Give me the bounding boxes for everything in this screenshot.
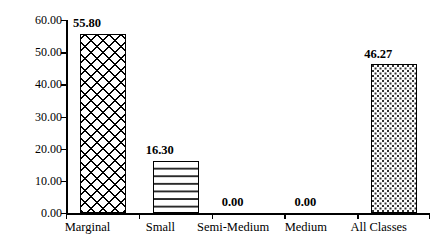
y-tick-mark — [61, 52, 66, 53]
value-label-all-classes: 46.27 — [348, 48, 408, 61]
bar-marginal — [80, 34, 126, 214]
y-tick-label: 30.00 — [26, 111, 62, 123]
y-tick-mark — [61, 149, 66, 150]
y-tick-label: 10.00 — [26, 175, 62, 187]
x-axis-line — [66, 213, 430, 215]
x-tick-mark — [357, 213, 358, 219]
y-tick-label: 50.00 — [26, 46, 62, 58]
x-tick-label-small: Small — [123, 220, 198, 234]
x-tick-mark — [212, 213, 213, 219]
value-label-small: 16.30 — [130, 144, 190, 157]
y-tick-label: 40.00 — [26, 78, 62, 90]
x-tick-mark — [139, 213, 140, 219]
x-tick-mark — [66, 213, 67, 219]
value-label-marginal: 55.80 — [57, 17, 117, 30]
y-tick-mark — [61, 117, 66, 118]
y-tick-mark — [61, 181, 66, 182]
x-tick-label-medium: Medium — [268, 220, 343, 234]
y-tick-mark — [61, 84, 66, 85]
y-tick-label: 20.00 — [26, 143, 62, 155]
value-label-semi-medium: 0.00 — [203, 196, 263, 209]
x-tick-label-semi-medium: Semi-Medium — [196, 220, 271, 234]
bar-small — [153, 161, 199, 213]
bar-all-classes — [371, 64, 417, 213]
y-tick-label: 0.00 — [26, 207, 62, 219]
y-axis-tick-labels: 60.00 50.00 40.00 30.00 20.00 10.00 0.00 — [24, 0, 62, 249]
bar-chart: in per cent 60.00 50.00 40.00 30.00 20.0… — [0, 0, 447, 249]
value-label-medium: 0.00 — [275, 196, 335, 209]
y-axis-line — [66, 20, 68, 213]
x-tick-mark — [429, 213, 430, 219]
x-tick-mark — [284, 213, 285, 219]
x-tick-label-all-classes: All Classes — [341, 220, 416, 234]
x-tick-label-marginal: Marginal — [50, 220, 125, 234]
